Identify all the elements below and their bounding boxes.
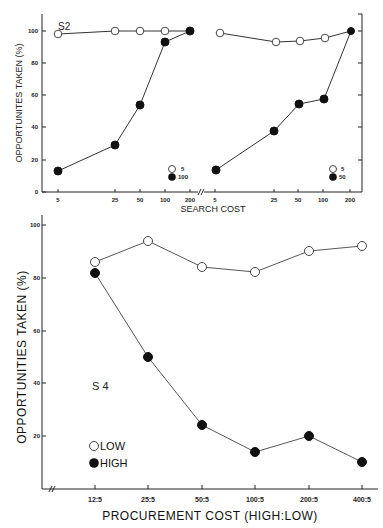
series-line-100 (58, 31, 190, 171)
bottom-y-axis-label: OPPORTUNITIES TAKEN (%) (15, 270, 29, 444)
x-tick-label: 100:5 (246, 496, 264, 503)
y-tick-label: 60 (33, 328, 40, 334)
top-left-panel (42, 14, 204, 195)
x-tick-label: 400:5 (353, 496, 371, 503)
y-tick-label: 60 (31, 92, 38, 98)
x-tick-label: 200 (185, 197, 196, 203)
series-markers-100 (54, 27, 194, 175)
bottom-x-axis-label: PROCUREMENT COST (HIGH:LOW) (102, 509, 318, 523)
top-y-axis-label: OPPORTUNITES TAKEN (%) (14, 43, 24, 162)
x-tick-label: 200:5 (300, 496, 318, 503)
legend-label: 100 (178, 174, 189, 180)
y-tick-label: 0 (35, 189, 39, 195)
y-tick-label: 100 (30, 222, 41, 228)
x-tick-label: 50:5 (195, 496, 209, 503)
legend-label-high: HIGH (100, 457, 128, 469)
y-tick-label: 40 (31, 124, 38, 130)
y-tick-label: 80 (31, 60, 38, 66)
top-right-panel (204, 14, 362, 192)
filled-circle-icon (89, 458, 99, 468)
panel-label-s4: S 4 (92, 380, 109, 392)
y-tick-label: 80 (33, 275, 40, 281)
x-tick-label: 5 (213, 197, 217, 203)
top-right-legend: 5 50 (329, 166, 346, 181)
series-markers-5 (54, 27, 169, 38)
open-circle-icon (169, 166, 176, 173)
open-circle-icon (90, 442, 99, 451)
series-line-5 (58, 31, 190, 34)
y-tick-label: 20 (33, 433, 40, 439)
legend-label: 50 (339, 174, 346, 180)
y-tick-label: 40 (33, 380, 40, 386)
x-tick-label: 200 (345, 197, 356, 203)
x-tick-label: 25 (271, 197, 278, 203)
legend-label-low: LOW (100, 440, 126, 452)
open-circle-icon (330, 166, 337, 173)
series-markers-high (91, 269, 367, 467)
figure: 0 20 40 60 80 100 5 25 50 100 200 S2 OPP… (0, 0, 383, 528)
filled-circle-icon (329, 173, 337, 181)
x-tick-label: 100 (160, 197, 171, 203)
series-markers-50-right (212, 28, 355, 175)
top-left-legend: 5 100 (168, 166, 188, 181)
series-markers-5-right (216, 29, 329, 46)
legend-label: 5 (341, 166, 345, 172)
series-line-50-right (216, 31, 351, 170)
x-tick-label: 100 (318, 197, 329, 203)
x-tick-label: 50 (137, 197, 144, 203)
x-tick-label: 50 (295, 197, 302, 203)
series-line-low (95, 241, 362, 272)
series-line-high (95, 273, 362, 462)
x-tick-label: 5 (56, 197, 60, 203)
x-tick-label: 25:5 (141, 496, 155, 503)
top-x-axis-label: SEARCH COST (180, 204, 246, 214)
top-right-tick-labels: 5 25 50 100 200 (213, 197, 355, 203)
series-line-5-right (220, 31, 351, 42)
x-tick-label: 25 (112, 197, 119, 203)
filled-circle-icon (168, 173, 176, 181)
x-tick-label: 12:5 (88, 496, 102, 503)
series-markers-low (91, 237, 367, 277)
bottom-legend: LOW HIGH (89, 440, 127, 469)
legend-label: 5 (181, 166, 185, 172)
y-tick-label: 100 (28, 28, 39, 34)
y-tick-label: 20 (31, 157, 38, 163)
